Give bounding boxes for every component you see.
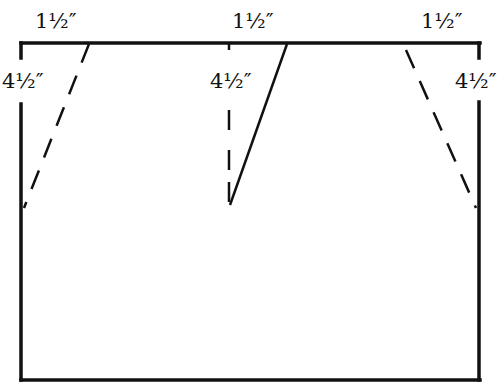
label-center-depth: 4½″ <box>210 69 252 93</box>
dart-diagram: 1½″ 1½″ 1½″ 4½″ 4½″ 4½″ <box>0 0 504 389</box>
label-top-center: 1½″ <box>232 9 274 33</box>
label-top-right: 1½″ <box>421 9 463 33</box>
label-top-left: 1½″ <box>35 9 77 33</box>
label-side-left: 4½″ <box>2 69 44 93</box>
label-side-right: 4½″ <box>455 69 497 93</box>
